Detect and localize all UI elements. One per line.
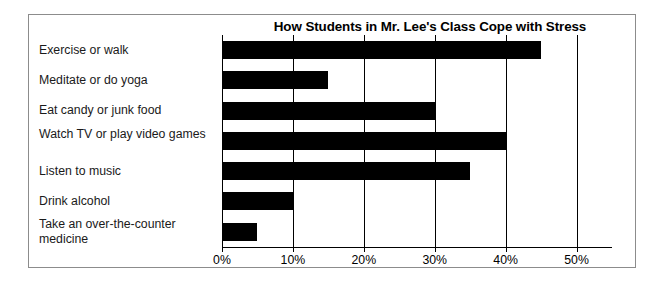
bar-row (222, 217, 612, 247)
gridline (222, 35, 223, 247)
gridline (506, 35, 507, 247)
bar-row (222, 35, 612, 65)
x-tick-label: 10% (270, 253, 316, 268)
category-label: Take an over-the-counter medicine (39, 217, 217, 246)
bar-row (222, 126, 612, 156)
gridline (364, 35, 365, 247)
bar (222, 162, 470, 180)
tick-mark (364, 247, 365, 252)
category-label: Listen to music (39, 164, 217, 179)
category-label: Watch TV or play video games (39, 127, 217, 142)
category-label: Eat candy or junk food (39, 103, 217, 118)
tick-mark (435, 247, 436, 252)
bar-row (222, 65, 612, 95)
bar-row (222, 186, 612, 216)
gridline (577, 35, 578, 247)
bar-row (222, 96, 612, 126)
tick-mark (222, 247, 223, 252)
bar (222, 223, 257, 241)
gridline (435, 35, 436, 247)
tick-mark (293, 247, 294, 252)
chart-title: How Students in Mr. Lee's Class Cope wit… (228, 18, 632, 35)
x-tick-label: 50% (554, 253, 600, 268)
bar (222, 102, 435, 120)
bar (222, 71, 328, 89)
bar (222, 192, 293, 210)
bar (222, 41, 541, 59)
plot-area (222, 35, 612, 247)
tick-mark (506, 247, 507, 252)
x-tick-label: 0% (199, 253, 245, 268)
category-label: Drink alcohol (39, 194, 217, 209)
bar-row (222, 156, 612, 186)
x-tick-label: 30% (412, 253, 458, 268)
tick-mark (577, 247, 578, 252)
x-tick-label: 20% (341, 253, 387, 268)
category-label: Exercise or walk (39, 43, 217, 58)
category-label: Meditate or do yoga (39, 73, 217, 88)
x-tick-label: 40% (483, 253, 529, 268)
x-axis-line (222, 247, 612, 248)
chart-figure: How Students in Mr. Lee's Class Cope wit… (0, 0, 658, 283)
gridline (293, 35, 294, 247)
